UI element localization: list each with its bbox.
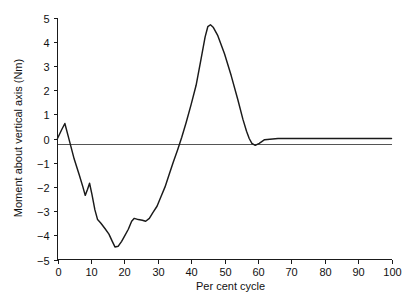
y-tick-label: −1 bbox=[37, 158, 50, 170]
x-tick-label: 20 bbox=[118, 266, 130, 278]
x-tick-label: 70 bbox=[285, 266, 297, 278]
y-axis-tick-labels: −5−4−3−2−1012345 bbox=[37, 13, 50, 267]
data-curve bbox=[58, 25, 392, 247]
y-tick-label: −2 bbox=[37, 182, 50, 194]
y-tick-label: 5 bbox=[43, 13, 49, 25]
x-tick-label: 30 bbox=[152, 266, 164, 278]
y-tick-label: 3 bbox=[43, 61, 49, 73]
line-chart-plot: −5−4−3−2−1012345 0102030405060708090100 … bbox=[0, 0, 409, 306]
y-axis-title: Moment about vertical axis (Nm) bbox=[12, 59, 24, 217]
y-axis-ticks bbox=[54, 19, 58, 261]
x-tick-label: 80 bbox=[319, 266, 331, 278]
x-axis-title: Per cent cycle bbox=[196, 280, 265, 292]
x-axis-ticks bbox=[59, 260, 393, 264]
x-axis-tick-labels: 0102030405060708090100 bbox=[55, 266, 401, 278]
y-tick-label: 4 bbox=[43, 37, 49, 49]
x-tick-label: 90 bbox=[352, 266, 364, 278]
x-tick-label: 100 bbox=[383, 266, 401, 278]
chart-figure: −5−4−3−2−1012345 0102030405060708090100 … bbox=[0, 0, 409, 306]
x-tick-label: 0 bbox=[55, 266, 61, 278]
y-tick-label: −5 bbox=[37, 255, 50, 267]
data-series-group bbox=[58, 25, 392, 247]
x-tick-label: 60 bbox=[252, 266, 264, 278]
x-tick-label: 50 bbox=[219, 266, 231, 278]
y-tick-label: 0 bbox=[43, 134, 49, 146]
y-tick-label: 2 bbox=[43, 85, 49, 97]
y-tick-label: 1 bbox=[43, 109, 49, 121]
x-tick-label: 10 bbox=[85, 266, 97, 278]
y-tick-label: −3 bbox=[37, 206, 50, 218]
x-tick-label: 40 bbox=[185, 266, 197, 278]
y-tick-label: −4 bbox=[37, 230, 50, 242]
